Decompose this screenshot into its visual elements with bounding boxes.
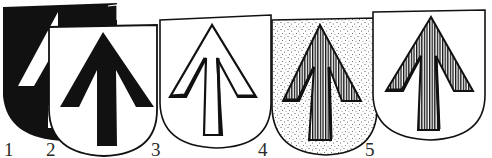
shield-3 <box>160 15 271 148</box>
shield-5 <box>373 10 485 140</box>
shield-label-3: 3 <box>151 140 161 158</box>
shield-label-2: 2 <box>46 140 56 158</box>
shield-2 <box>49 25 157 156</box>
shields-drawing <box>0 0 492 158</box>
heraldry-figure: 1 2 3 4 5 <box>0 0 492 158</box>
shield-4 <box>272 18 377 155</box>
shield-label-4: 4 <box>258 140 268 158</box>
shield-label-1: 1 <box>4 140 14 158</box>
shield-label-5: 5 <box>365 140 375 158</box>
